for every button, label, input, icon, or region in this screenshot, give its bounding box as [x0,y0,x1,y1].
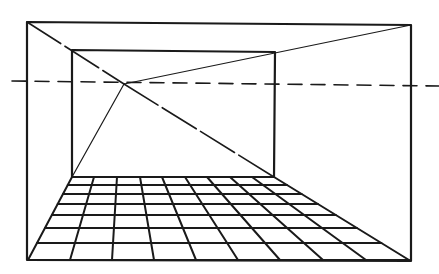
grid-column-line [162,177,196,260]
bottom-right-diagonal [124,84,274,177]
horizon-line [12,81,439,86]
perspective-diagram [0,0,439,274]
grid-column-line [70,177,94,260]
bottom-left-line [72,84,124,177]
horizon-dashed-line [12,81,439,86]
diagram-svg [0,0,439,274]
grid-column-line [112,177,117,260]
grid-column-line [185,177,238,260]
top-right-line [124,25,411,84]
grid-column-line [28,177,72,260]
grid-column-line [140,177,154,260]
top-left-diagonal [27,22,124,84]
floor-grid [28,177,409,260]
converging-lines [27,22,411,177]
grid-column-line [274,177,409,260]
